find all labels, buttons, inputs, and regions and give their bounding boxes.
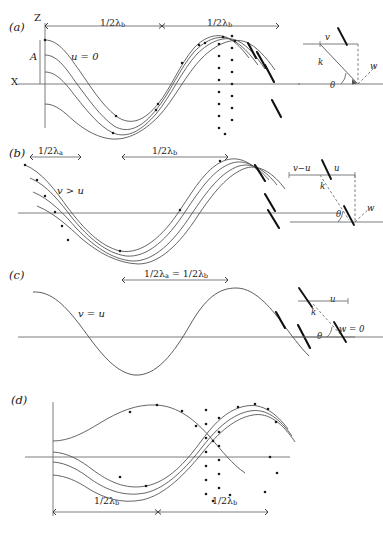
- wave-curve-d-4: [53, 415, 295, 502]
- dot-markers-d: [119, 403, 279, 503]
- figure-canvas: (a) Z X A u = 0 1/2λb 1/2λb v k w θ: [0, 0, 383, 533]
- wave-curves-d: [53, 405, 295, 501]
- wave-curve-d-2: [53, 405, 288, 486]
- wave-curve-d-3: [53, 411, 292, 495]
- panel-d-graphics: [0, 0, 383, 533]
- wave-curve-d-1: [53, 405, 245, 473]
